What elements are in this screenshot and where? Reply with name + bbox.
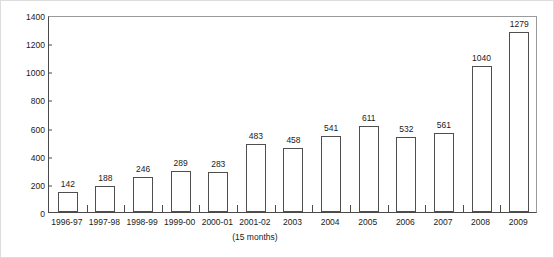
bar-slot[interactable]: 188 [87, 17, 125, 212]
bar-value-label: 283 [211, 159, 225, 169]
y-tick-label: 0 [40, 209, 45, 219]
x-tick-mark [124, 205, 125, 212]
x-tick-mark [350, 205, 351, 212]
bar[interactable] [396, 137, 416, 212]
bar-value-label: 246 [136, 164, 150, 174]
bar[interactable] [95, 186, 115, 212]
x-tick-mark [87, 205, 88, 212]
bar[interactable] [359, 126, 379, 212]
x-tick-label: 2005 [358, 217, 377, 227]
bar-value-label: 541 [324, 123, 338, 133]
x-tick-label: 2001-02 [239, 217, 270, 227]
x-tick-label: 1996-97 [51, 217, 82, 227]
bar-slot[interactable]: 289 [162, 17, 200, 212]
bar[interactable] [208, 172, 228, 212]
bar-value-label: 142 [61, 179, 75, 189]
x-tick-label: 2006 [396, 217, 415, 227]
bar[interactable] [509, 32, 529, 212]
y-tick-label: 600 [31, 125, 45, 135]
x-tick-label: 2004 [321, 217, 340, 227]
x-tick-label: 2000-01 [202, 217, 233, 227]
x-tick-mark [388, 205, 389, 212]
x-axis-annotation-15-months: (15 months) [232, 232, 277, 242]
bar[interactable] [133, 177, 153, 212]
x-tick-label: 2008 [471, 217, 490, 227]
x-tick-label: 1999-00 [164, 217, 195, 227]
bar[interactable] [171, 171, 191, 212]
bar-value-label: 532 [399, 124, 413, 134]
bar-slot[interactable]: 1040 [463, 17, 501, 212]
x-tick-mark [312, 205, 313, 212]
bar-slot[interactable]: 532 [388, 17, 426, 212]
x-tick-label: 1998-99 [126, 217, 157, 227]
x-tick-label: 2007 [433, 217, 452, 227]
bar-slot[interactable]: 541 [312, 17, 350, 212]
bar-slot[interactable]: 611 [350, 17, 388, 212]
bar-slot[interactable]: 483 [237, 17, 275, 212]
x-tick-mark [237, 205, 238, 212]
y-tick-label: 1400 [26, 12, 45, 22]
bar-value-label: 611 [362, 113, 376, 123]
bar[interactable] [58, 192, 78, 212]
y-tick-label: 400 [31, 153, 45, 163]
bar[interactable] [283, 148, 303, 212]
x-tick-label: 2003 [283, 217, 302, 227]
x-tick-mark [199, 205, 200, 212]
bar-slot[interactable]: 458 [275, 17, 313, 212]
x-tick-mark [425, 205, 426, 212]
bar-slot[interactable]: 246 [124, 17, 162, 212]
bar-value-label: 458 [286, 135, 300, 145]
bar-value-label: 483 [249, 131, 263, 141]
x-axis-tick-labels: 1996-971997-981998-991999-002000-012001-… [48, 217, 537, 231]
bar-slot[interactable]: 1279 [500, 17, 538, 212]
x-tick-label: 2009 [509, 217, 528, 227]
bar-series: 1421882462892834834585416115325611040127… [49, 17, 536, 212]
x-tick-mark [500, 205, 501, 212]
x-tick-mark [275, 205, 276, 212]
bar-value-label: 1040 [472, 53, 491, 63]
plot-area: 0200400600800100012001400 14218824628928… [48, 16, 537, 213]
bar[interactable] [246, 144, 266, 212]
bar-slot[interactable]: 142 [49, 17, 87, 212]
bar[interactable] [321, 136, 341, 212]
bar-chart-figure: Number of reports 0200400600800100012001… [0, 0, 554, 258]
bar-value-label: 188 [98, 173, 112, 183]
x-tick-mark [162, 205, 163, 212]
y-tick-label: 1200 [26, 40, 45, 50]
x-tick-mark [463, 205, 464, 212]
bar[interactable] [434, 133, 454, 212]
bar-value-label: 1279 [510, 19, 529, 29]
x-tick-label: 1997-98 [89, 217, 120, 227]
bar-slot[interactable]: 283 [199, 17, 237, 212]
y-tick-label: 800 [31, 96, 45, 106]
bar-value-label: 289 [174, 158, 188, 168]
y-tick-label: 200 [31, 181, 45, 191]
bar-value-label: 561 [437, 120, 451, 130]
y-tick-label: 1000 [26, 68, 45, 78]
bar-slot[interactable]: 561 [425, 17, 463, 212]
bar[interactable] [472, 66, 492, 212]
